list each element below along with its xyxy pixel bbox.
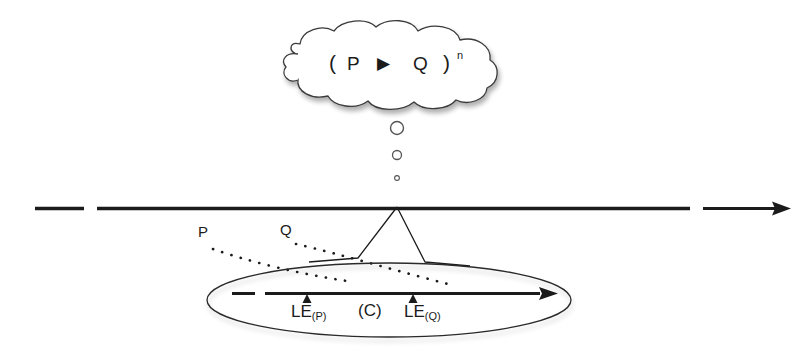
main-timeline xyxy=(35,202,791,216)
le-p-sub: (P) xyxy=(312,310,327,322)
le-p-main: LE xyxy=(291,302,312,321)
marker-label-le-q: LE(Q) xyxy=(404,303,441,322)
zoom-cone xyxy=(309,207,470,266)
thought-bubble-small xyxy=(395,176,400,181)
abstract-pattern-cloud xyxy=(284,21,498,110)
cloud-exponent: n xyxy=(457,50,463,61)
thought-bubble-medium xyxy=(393,151,402,160)
cloud-left-term: P xyxy=(347,54,360,73)
marker-label-le-p: LE(P) xyxy=(291,303,326,322)
cloud-open-paren: ( xyxy=(329,52,336,73)
trace-label-q: Q xyxy=(280,222,292,237)
le-q-sub: (Q) xyxy=(425,310,441,322)
thought-bubble-large xyxy=(391,122,404,135)
thought-bubble-chain xyxy=(391,122,404,181)
context-label: (C) xyxy=(358,302,382,319)
le-q-main: LE xyxy=(404,302,425,321)
diagram-vector-layer xyxy=(0,0,806,360)
trace-label-p: P xyxy=(198,224,208,239)
diagram-canvas: ( P ▶ Q ) n P Q LE(P) (C) LE(Q) xyxy=(0,0,806,360)
right-triangle-icon: ▶ xyxy=(377,55,390,72)
cloud-right-term: Q xyxy=(413,54,428,73)
cloud-close-paren: ) xyxy=(443,52,450,73)
detail-ellipse xyxy=(207,263,571,337)
